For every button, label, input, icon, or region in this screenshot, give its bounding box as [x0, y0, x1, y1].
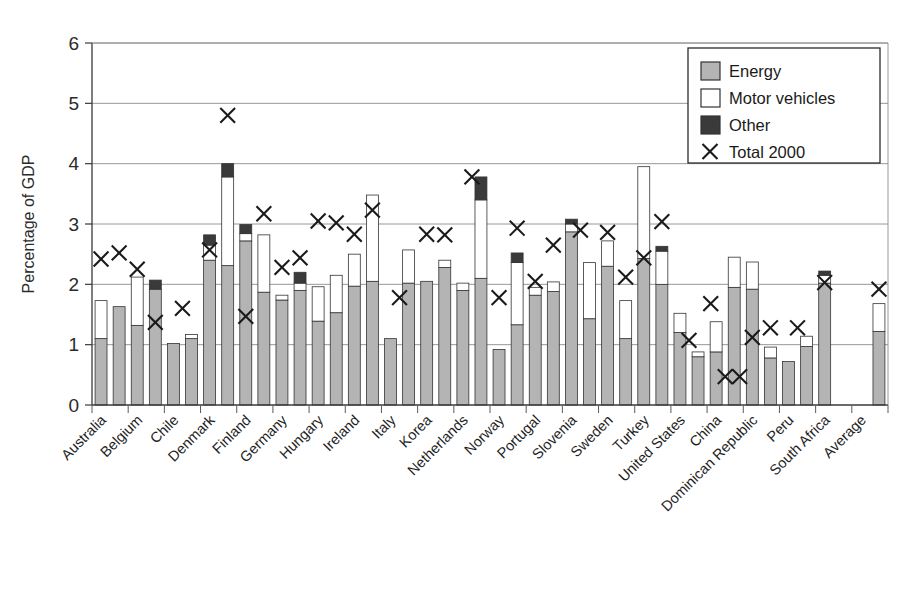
bar-segment-energy	[222, 266, 234, 405]
bar-segment-motor-vehicles	[692, 352, 704, 357]
bar-segment-energy	[366, 281, 378, 405]
bar-segment-other	[294, 272, 306, 283]
stacked-bar	[584, 263, 596, 405]
bar-segment-motor-vehicles	[366, 195, 378, 281]
stacked-bar	[366, 195, 378, 405]
bar-segment-energy	[746, 289, 758, 405]
stacked-bar	[385, 339, 397, 405]
stacked-bar	[113, 307, 125, 405]
bar-segment-motor-vehicles	[674, 313, 686, 332]
stacked-bar	[602, 241, 614, 405]
bar-segment-motor-vehicles	[746, 262, 758, 289]
bar-segment-energy	[348, 286, 360, 405]
bar-segment-energy	[728, 287, 740, 405]
bar-segment-motor-vehicles	[529, 287, 541, 295]
bar-segment-other	[149, 280, 161, 289]
chart-container: 0123456 AustraliaBelgiumChileDenmarkFinl…	[0, 0, 912, 601]
bar-segment-motor-vehicles	[764, 347, 776, 358]
stacked-bar	[439, 260, 451, 405]
stacked-bar	[240, 225, 252, 405]
bar-segment-energy	[276, 300, 288, 405]
bar-segment-motor-vehicles	[475, 200, 487, 278]
legend-item: Energy	[701, 62, 782, 80]
stacked-bar	[186, 334, 198, 405]
stacked-bar	[674, 313, 686, 405]
legend-swatch-gray	[701, 62, 720, 80]
bar-segment-energy	[692, 357, 704, 405]
bar-segment-motor-vehicles	[728, 257, 740, 287]
stacked-bar	[167, 343, 179, 405]
bar-segment-motor-vehicles	[403, 250, 415, 283]
bar-segment-other	[240, 225, 252, 234]
bar-segment-energy	[113, 307, 125, 405]
stacked-bar	[547, 282, 559, 405]
bar-segment-motor-vehicles	[186, 334, 198, 338]
stacked-bar	[656, 246, 668, 405]
bar-segment-motor-vehicles	[439, 260, 451, 267]
y-axis-tick-label: 2	[68, 274, 79, 295]
bar-segment-motor-vehicles	[258, 235, 270, 292]
bar-segment-motor-vehicles	[620, 301, 632, 339]
bar-segment-energy	[511, 325, 523, 405]
stacked-bar	[692, 352, 704, 405]
bar-segment-energy	[258, 292, 270, 405]
y-axis-title-text: Percentage of GDP	[20, 155, 37, 294]
bar-segment-motor-vehicles	[710, 322, 722, 352]
stacked-bar	[620, 301, 632, 405]
bar-segment-energy	[801, 346, 813, 405]
legend-item-label: Motor vehicles	[729, 89, 835, 107]
stacked-bar	[511, 253, 523, 405]
legend-swatch-white	[701, 89, 720, 107]
y-axis-tick-label: 6	[68, 33, 79, 54]
bar-segment-motor-vehicles	[584, 263, 596, 319]
legend-swatch-dark	[701, 116, 720, 134]
y-axis-tick-label: 4	[68, 153, 79, 174]
bar-segment-energy	[565, 232, 577, 405]
bar-segment-energy	[330, 313, 342, 405]
stacked-bar	[276, 295, 288, 405]
bar-segment-motor-vehicles	[330, 275, 342, 312]
bar-segment-motor-vehicles	[873, 304, 885, 332]
bar-segment-motor-vehicles	[294, 283, 306, 290]
stacked-bar	[475, 177, 487, 405]
stacked-bar	[529, 287, 541, 405]
bar-segment-energy	[674, 333, 686, 405]
y-axis-title: Percentage of GDP	[20, 155, 37, 294]
stacked-bar	[403, 250, 415, 405]
stacked-bar	[764, 347, 776, 405]
bar-segment-energy	[783, 362, 795, 405]
bar-segment-energy	[764, 358, 776, 405]
y-axis-tick-label: 3	[68, 214, 79, 235]
legend-item: Other	[701, 116, 771, 134]
bar-segment-energy	[529, 295, 541, 405]
bar-segment-other	[511, 253, 523, 263]
bar-segment-motor-vehicles	[276, 295, 288, 300]
stacked-bar	[294, 272, 306, 405]
bar-segment-other	[656, 246, 668, 251]
bar-segment-energy	[873, 331, 885, 405]
stacked-bar	[222, 164, 234, 405]
bar-segment-energy	[294, 290, 306, 405]
bar-segment-energy	[421, 281, 433, 405]
bar-segment-energy	[149, 289, 161, 405]
bar-segment-energy	[710, 352, 722, 405]
bar-segment-other	[819, 271, 831, 275]
bar-segment-motor-vehicles	[801, 336, 813, 346]
bar-segment-energy	[602, 266, 614, 405]
stacked-bar	[312, 287, 324, 405]
stacked-bar	[801, 336, 813, 405]
stacked-bar	[457, 283, 469, 405]
bar-segment-motor-vehicles	[457, 283, 469, 290]
stacked-bar	[493, 349, 505, 405]
stacked-bar	[873, 304, 885, 405]
chart-legend: EnergyMotor vehiclesOtherTotal 2000	[688, 48, 880, 163]
bar-segment-energy	[457, 290, 469, 405]
y-axis-tick-label: 0	[68, 395, 79, 416]
bar-segment-energy	[204, 260, 216, 405]
gdp-tax-revenue-stacked-bar-chart: 0123456 AustraliaBelgiumChileDenmarkFinl…	[0, 0, 912, 601]
bar-segment-energy	[620, 339, 632, 405]
bar-segment-motor-vehicles	[222, 177, 234, 266]
bar-segment-motor-vehicles	[348, 254, 360, 286]
stacked-bar	[204, 235, 216, 405]
stacked-bar	[131, 277, 143, 405]
